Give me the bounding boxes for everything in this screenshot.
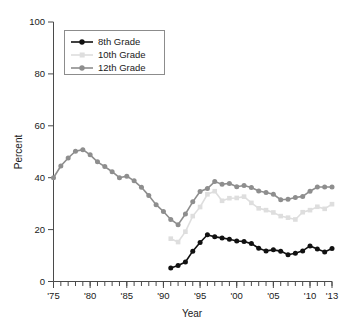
x-tick-label: '90	[157, 290, 169, 301]
data-point	[110, 169, 115, 174]
data-point	[80, 147, 85, 152]
data-point	[117, 175, 122, 180]
data-point	[330, 202, 335, 207]
data-point	[73, 149, 78, 154]
data-point	[161, 209, 166, 214]
data-point	[308, 189, 313, 194]
data-point	[315, 185, 320, 190]
y-tick-label: 20	[34, 224, 45, 235]
y-axis-title: Percent	[13, 135, 24, 170]
data-point	[220, 182, 225, 187]
data-point	[234, 184, 239, 189]
y-tick-label: 100	[29, 16, 45, 27]
data-point	[168, 236, 173, 241]
data-point	[58, 164, 63, 169]
data-point	[293, 217, 298, 222]
data-point	[278, 249, 283, 254]
data-point	[278, 214, 283, 219]
data-point	[293, 251, 298, 256]
y-tick-label: 60	[34, 120, 45, 131]
data-point	[51, 175, 56, 180]
y-tick-label: 0	[40, 276, 45, 287]
data-point	[256, 246, 261, 251]
data-point	[256, 188, 261, 193]
data-point	[190, 199, 195, 204]
data-point	[205, 232, 210, 237]
data-point	[256, 206, 261, 211]
data-point	[205, 186, 210, 191]
x-tick-label: '00	[231, 290, 243, 301]
data-point	[286, 252, 291, 257]
data-point	[249, 201, 254, 206]
data-point	[190, 249, 195, 254]
chart-container: 020406080100 '75'80'85'90'95'00'05'10'13…	[0, 0, 351, 324]
data-point	[212, 179, 217, 184]
data-point	[220, 198, 225, 203]
legend-label: 12th Grade	[98, 62, 146, 73]
data-point	[330, 246, 335, 251]
data-point	[168, 266, 173, 271]
data-point	[102, 164, 107, 169]
legend-marker	[80, 53, 85, 58]
data-point	[227, 181, 232, 186]
data-point	[271, 210, 276, 215]
data-point	[154, 202, 159, 207]
data-point	[286, 215, 291, 220]
data-point	[198, 189, 203, 194]
data-point	[190, 214, 195, 219]
data-point	[146, 193, 151, 198]
data-point	[168, 217, 173, 222]
data-point	[198, 205, 203, 210]
data-point	[300, 194, 305, 199]
y-tick-label: 40	[34, 172, 45, 183]
data-point	[220, 235, 225, 240]
data-point	[139, 185, 144, 190]
x-tick-label: '13	[326, 290, 338, 301]
data-point	[234, 196, 239, 201]
data-point	[183, 260, 188, 265]
x-tick-label: '10	[304, 290, 316, 301]
x-tick-label: '80	[84, 290, 96, 301]
data-point	[271, 192, 276, 197]
data-point	[322, 185, 327, 190]
x-tick-label: '75	[47, 290, 59, 301]
data-point	[264, 248, 269, 253]
data-point	[95, 159, 100, 164]
data-point	[315, 247, 320, 252]
legend-label: 8th Grade	[98, 36, 140, 47]
data-point	[176, 222, 181, 227]
data-point	[271, 247, 276, 252]
data-point	[183, 212, 188, 217]
data-point	[212, 234, 217, 239]
y-tick-label: 80	[34, 68, 45, 79]
x-axis-title: Year	[182, 308, 203, 319]
data-point	[205, 192, 210, 197]
data-point	[315, 204, 320, 209]
data-point	[330, 185, 335, 190]
data-point	[322, 249, 327, 254]
data-point	[132, 178, 137, 183]
x-tick-label: '95	[194, 290, 206, 301]
data-point	[234, 239, 239, 244]
data-point	[308, 208, 313, 213]
legend-marker	[79, 39, 84, 44]
data-point	[300, 210, 305, 215]
x-tick-label: '05	[267, 290, 279, 301]
data-point	[183, 229, 188, 234]
data-point	[227, 237, 232, 242]
data-point	[176, 240, 181, 245]
data-point	[249, 185, 254, 190]
legend: 8th Grade10th Grade12th Grade	[65, 31, 165, 75]
data-point	[242, 183, 247, 188]
data-point	[264, 208, 269, 213]
data-point	[308, 243, 313, 248]
data-point	[227, 196, 232, 201]
data-point	[286, 197, 291, 202]
data-point	[278, 197, 283, 202]
data-point	[264, 190, 269, 195]
x-tick-label: '85	[121, 290, 133, 301]
chart-background	[0, 0, 351, 324]
legend-label: 10th Grade	[98, 49, 146, 60]
data-point	[66, 155, 71, 160]
legend-marker	[79, 65, 84, 70]
